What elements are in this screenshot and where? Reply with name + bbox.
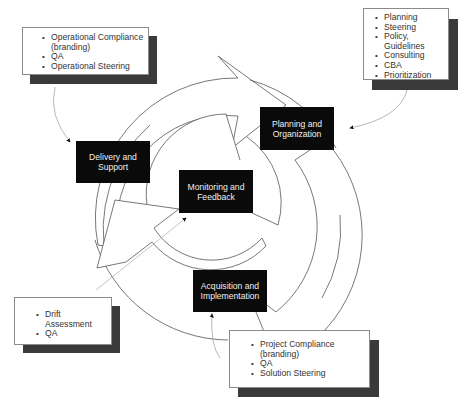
connector-planning-note — [350, 90, 407, 128]
note-list: Drift Assessment QA — [33, 310, 109, 339]
stage-label-line2: Feedback — [197, 192, 235, 202]
note-item: Policy, Guidelines — [384, 32, 446, 51]
stage-label-line1: Delivery and — [89, 152, 137, 162]
stage-planning-and-organization: Planning and Organization — [260, 107, 334, 150]
note-item: Drift Assessment — [45, 310, 109, 329]
note-list: Planning Steering Policy, Guidelines Con… — [372, 13, 446, 80]
note-item: Operational Steering — [51, 62, 144, 72]
connector-delivery-note — [53, 87, 70, 142]
stage-label-line2: Organization — [273, 129, 322, 139]
note-item: Project Compliance (branding) — [260, 340, 367, 359]
note-list: Project Compliance (branding) QA Solutio… — [248, 340, 367, 378]
stage-label-line2: Implementation — [201, 291, 260, 301]
note-list: Operational Compliance (branding) QA Ope… — [39, 33, 144, 71]
stage-label-line1: Acquisition and — [201, 281, 259, 291]
note-item: QA — [45, 329, 109, 339]
note-item: Solution Steering — [260, 369, 367, 379]
connector-acquisition-note — [212, 314, 220, 358]
note-card: Operational Compliance (branding) QA Ope… — [22, 27, 149, 75]
note-card: Drift Assessment QA — [14, 297, 112, 345]
stage-label-line1: Monitoring and — [188, 182, 245, 192]
note-item: Prioritization — [384, 71, 446, 81]
stage-monitoring-and-feedback: Monitoring and Feedback — [179, 170, 253, 213]
stage-delivery-and-support: Delivery and Support — [76, 141, 150, 183]
note-item-cont: (branding) — [51, 43, 144, 53]
note-card: Project Compliance (branding) QA Solutio… — [229, 330, 370, 388]
stage-acquisition-and-implementation: Acquisition and Implementation — [193, 270, 267, 312]
stage-label-line2: Support — [98, 162, 128, 172]
note-card: Planning Steering Policy, Guidelines Con… — [363, 8, 449, 80]
stage-label-line1: Planning and — [272, 119, 322, 129]
